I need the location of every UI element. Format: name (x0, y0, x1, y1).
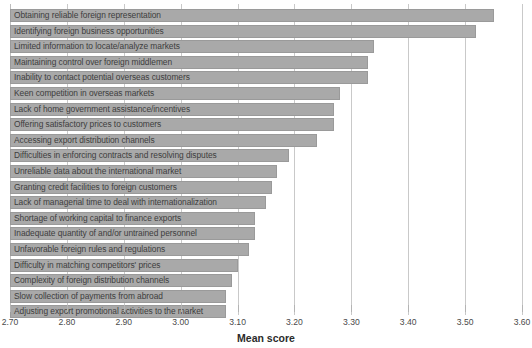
bar-category-label: Keen competition in overseas markets (14, 87, 154, 100)
bar-category-label: Slow collection of payments from abroad (14, 290, 163, 303)
tick-label: 3.30 (343, 317, 360, 327)
bars-container: Obtaining reliable foreign representatio… (10, 4, 522, 315)
bar-row[interactable]: Inability to contact potential overseas … (10, 71, 522, 84)
tick-label: 3.50 (457, 317, 474, 327)
tick-mark (10, 305, 11, 312)
tick-label: 2.70 (2, 317, 19, 327)
bar-category-label: Lack of managerial time to deal with int… (14, 196, 217, 209)
bar-row[interactable]: Accessing export distribution channels (10, 134, 522, 147)
mean-score-bar-chart: Obtaining reliable foreign representatio… (0, 0, 532, 348)
tick-mark (294, 305, 295, 312)
tick-mark (465, 305, 466, 312)
bar-category-label: Difficulties in enforcing contracts and … (14, 149, 217, 162)
bar-category-label: Difficulty in matching competitors' pric… (14, 259, 160, 272)
tick-label: 2.90 (115, 317, 132, 327)
x-axis-title: Mean score (0, 332, 532, 344)
bar-row[interactable]: Difficulties in enforcing contracts and … (10, 149, 522, 162)
bar-row[interactable]: Limited information to locate/analyze ma… (10, 40, 522, 53)
bar-row[interactable]: Complexity of foreign distribution chann… (10, 274, 522, 287)
tick-mark (124, 305, 125, 312)
bar-row[interactable]: Lack of home government assistance/incen… (10, 103, 522, 116)
tick-mark (408, 305, 409, 312)
bar-row[interactable]: Offering satisfactory prices to customer… (10, 118, 522, 131)
bar-row[interactable]: Granting credit facilities to foreign cu… (10, 181, 522, 194)
x-axis: 2.702.802.903.003.103.203.303.403.503.60… (0, 315, 532, 348)
bar-row[interactable]: Unreliable data about the international … (10, 165, 522, 178)
bar-category-label: Complexity of foreign distribution chann… (14, 274, 169, 287)
tick-mark (522, 305, 523, 312)
bar-category-label: Maintaining control over foreign middlem… (14, 56, 172, 69)
bar-row[interactable]: Unfavorable foreign rules and regulation… (10, 243, 522, 256)
bar-category-label: Inability to contact potential overseas … (14, 71, 190, 84)
bar-category-label: Limited information to locate/analyze ma… (14, 40, 180, 53)
bar-row[interactable]: Inadequate quantity of and/or untrained … (10, 227, 522, 240)
tick-mark (181, 305, 182, 312)
tick-label: 3.10 (229, 317, 246, 327)
tick-mark (67, 305, 68, 312)
tick-label: 3.60 (514, 317, 531, 327)
bar-row[interactable]: Obtaining reliable foreign representatio… (10, 9, 522, 22)
bar-row[interactable]: Keen competition in overseas markets (10, 87, 522, 100)
bar-row[interactable]: Lack of managerial time to deal with int… (10, 196, 522, 209)
tick-label: 2.80 (59, 317, 76, 327)
bar-category-label: Granting credit facilities to foreign cu… (14, 181, 177, 194)
bar-row[interactable]: Maintaining control over foreign middlem… (10, 56, 522, 69)
bar-category-label: Unfavorable foreign rules and regulation… (14, 243, 165, 256)
bar-category-label: Inadequate quantity of and/or untrained … (14, 227, 197, 240)
bar-row[interactable]: Slow collection of payments from abroad (10, 290, 522, 303)
bar-category-label: Unreliable data about the international … (14, 165, 181, 178)
plot-area: Obtaining reliable foreign representatio… (10, 4, 522, 315)
bar-row[interactable]: Shortage of working capital to finance e… (10, 212, 522, 225)
tick-label: 3.40 (400, 317, 417, 327)
bar-category-label: Shortage of working capital to finance e… (14, 212, 181, 225)
bar-row[interactable]: Difficulty in matching competitors' pric… (10, 259, 522, 272)
bar-category-label: Lack of home government assistance/incen… (14, 103, 190, 116)
bar-category-label: Identifying foreign business opportuniti… (14, 25, 164, 38)
tick-mark (238, 305, 239, 312)
bar-category-label: Accessing export distribution channels (14, 134, 155, 147)
bar-category-label: Obtaining reliable foreign representatio… (14, 9, 161, 22)
tick-label: 3.20 (286, 317, 303, 327)
tick-mark (351, 305, 352, 312)
bar-category-label: Offering satisfactory prices to customer… (14, 118, 161, 131)
bar-row[interactable]: Identifying foreign business opportuniti… (10, 25, 522, 38)
tick-label: 3.00 (172, 317, 189, 327)
gridline-3.60 (522, 4, 523, 315)
